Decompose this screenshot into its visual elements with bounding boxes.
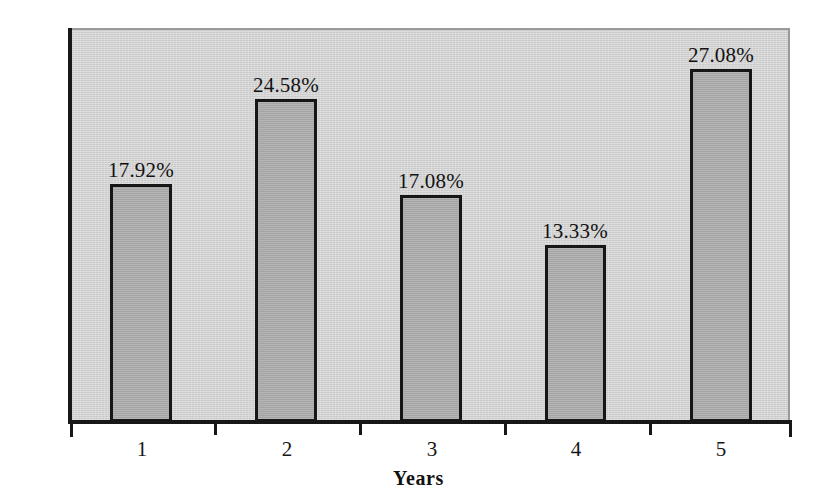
bar-4[interactable] [545, 245, 606, 422]
bar-1[interactable] [110, 184, 172, 422]
bar-chart: 17.92% 24.58% 17.08% 13.33% 27.08% 1 2 3… [0, 0, 837, 501]
x-axis-tick-4 [649, 424, 652, 435]
x-axis-tick-2 [359, 424, 362, 435]
x-axis-tick-end [789, 424, 792, 437]
x-axis-category-label-4: 4 [546, 437, 606, 462]
bar-value-label-4: 13.33% [535, 219, 615, 244]
x-axis-tick-3 [504, 424, 507, 435]
y-axis-line [68, 28, 72, 424]
x-axis-category-label-2: 2 [257, 437, 317, 462]
x-axis-tick-1 [214, 424, 217, 435]
x-axis-category-label-1: 1 [112, 437, 172, 462]
bar-value-label-3: 17.08% [391, 169, 471, 194]
x-axis-category-label-3: 3 [402, 437, 462, 462]
x-axis-title: Years [0, 467, 837, 490]
bar-2[interactable] [255, 99, 317, 422]
bar-value-label-1: 17.92% [101, 158, 181, 183]
bar-value-label-2: 24.58% [246, 73, 326, 98]
bar-5[interactable] [690, 69, 752, 422]
bar-3[interactable] [400, 195, 462, 422]
x-axis-category-label-5: 5 [691, 437, 751, 462]
x-axis-line [68, 420, 792, 424]
x-axis-tick-start [70, 424, 73, 437]
bar-value-label-5: 27.08% [681, 43, 761, 68]
